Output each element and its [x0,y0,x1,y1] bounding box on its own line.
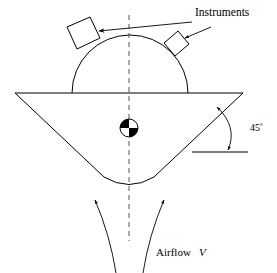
instrument-box-right-outline [164,31,189,56]
instrument-box-left-outline [67,17,100,49]
instrument-box-left [67,17,100,49]
leader-line-left-instrument [99,22,192,31]
schematic-drawing: Instruments 45° Airflow V [0,0,277,273]
diagram-canvas: Instruments 45° Airflow V [0,0,277,273]
instruments-label: Instruments [195,6,250,18]
airflow-streamline-left [95,200,116,273]
angle-value: 45 [250,122,260,133]
angle-label: 45° [250,122,263,134]
degree-symbol: ° [260,122,263,130]
airflow-velocity-symbol: V [199,246,207,258]
angle-arc [217,107,231,150]
airflow-streamlines [95,200,164,273]
airflow-label: Airflow [156,246,191,258]
instrument-box-right [164,31,189,56]
instruments-leader-lines [99,22,211,38]
dome-arc [72,35,188,93]
center-of-gravity-symbol [120,119,138,137]
instrument-dome [72,35,188,93]
angle-annotation: 45° [192,107,263,152]
leader-line-right-instrument [185,27,211,38]
airflow-label-group: Airflow V [156,246,207,258]
airflow-streamline-right [143,200,164,273]
